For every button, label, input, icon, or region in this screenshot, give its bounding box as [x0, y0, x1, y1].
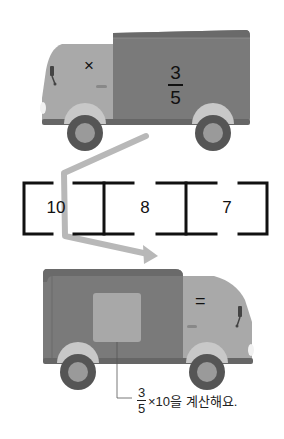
fraction-numerator: 3	[170, 63, 181, 82]
fraction-denominator: 5	[138, 402, 145, 415]
hint-label: 3 5 ×10을 계산해요.	[137, 386, 237, 415]
sequence-cell-1: 10	[41, 198, 71, 218]
top-truck-box-fraction: 3 5	[168, 63, 183, 107]
fraction-bar	[168, 84, 183, 86]
bottom-truck	[43, 269, 254, 390]
top-truck	[40, 30, 250, 151]
top-truck-cab-symbol: ×	[84, 56, 94, 76]
hint-fraction: 3 5	[137, 386, 146, 415]
fraction-numerator: 3	[138, 386, 145, 399]
bottom-truck-cab-symbol: =	[195, 291, 206, 312]
hint-text: ×10을 계산해요.	[148, 391, 237, 410]
sequence-cell-3: 7	[212, 198, 242, 218]
diagram-graphics	[0, 0, 284, 439]
fraction-denominator: 5	[170, 88, 181, 107]
sequence-cell-2: 8	[130, 198, 160, 218]
